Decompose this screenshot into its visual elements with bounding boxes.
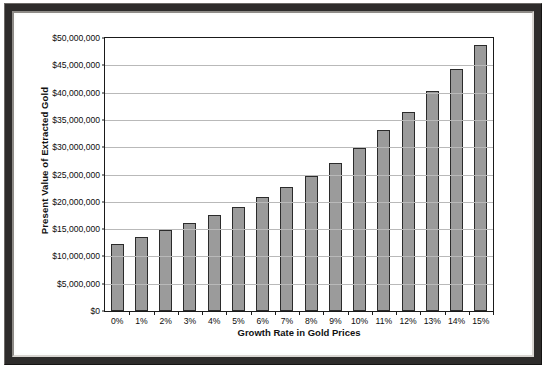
y-axis-tick-label: $50,000,000 bbox=[52, 33, 100, 43]
x-axis-tick-label: 12% bbox=[400, 316, 417, 326]
y-axis-tick bbox=[102, 256, 105, 257]
gridline bbox=[105, 93, 493, 94]
x-axis-tick bbox=[396, 311, 397, 315]
y-axis-tick bbox=[102, 92, 105, 93]
gridline bbox=[105, 65, 493, 66]
bar bbox=[256, 197, 269, 311]
y-axis-tick-label: $10,000,000 bbox=[52, 251, 100, 261]
x-axis-tick bbox=[275, 311, 276, 315]
x-axis-tick-label: 7% bbox=[281, 316, 293, 326]
y-axis-tick bbox=[102, 174, 105, 175]
bar bbox=[183, 223, 196, 311]
x-axis-tick-label: 11% bbox=[376, 316, 393, 326]
x-axis-tick-label: 4% bbox=[208, 316, 220, 326]
bar bbox=[135, 237, 148, 311]
x-axis-tick bbox=[226, 311, 227, 315]
bar bbox=[474, 45, 487, 311]
x-axis-tick bbox=[251, 311, 252, 315]
y-axis-tick-label: $25,000,000 bbox=[52, 170, 100, 180]
x-axis-tick bbox=[348, 311, 349, 315]
gridline bbox=[105, 147, 493, 148]
y-axis-tick-label: $20,000,000 bbox=[52, 197, 100, 207]
x-axis-tick-label: 15% bbox=[472, 316, 489, 326]
bar bbox=[450, 69, 463, 311]
gridline bbox=[105, 202, 493, 203]
y-axis-tick-label: $30,000,000 bbox=[52, 142, 100, 152]
x-axis-tick-label: 5% bbox=[232, 316, 244, 326]
x-axis-tick bbox=[154, 311, 155, 315]
x-axis-tick bbox=[469, 311, 470, 315]
x-axis-tick bbox=[493, 311, 494, 315]
x-axis-tick bbox=[420, 311, 421, 315]
x-axis-tick-label: 14% bbox=[448, 316, 465, 326]
y-axis-tick bbox=[102, 229, 105, 230]
gridline bbox=[105, 229, 493, 230]
x-axis-tick bbox=[372, 311, 373, 315]
x-axis-tick-label: 1% bbox=[135, 316, 147, 326]
x-axis-tick bbox=[202, 311, 203, 315]
gridline bbox=[105, 175, 493, 176]
y-axis-tick bbox=[102, 119, 105, 120]
x-axis-tick bbox=[445, 311, 446, 315]
y-axis-title: Present Value of Extracted Gold bbox=[39, 51, 50, 271]
x-axis-tick-label: 0% bbox=[111, 316, 123, 326]
y-axis-tick bbox=[102, 283, 105, 284]
x-axis-tick-label: 3% bbox=[184, 316, 196, 326]
bar bbox=[232, 207, 245, 311]
gridline bbox=[105, 256, 493, 257]
x-axis-tick bbox=[178, 311, 179, 315]
y-axis-tick bbox=[102, 38, 105, 39]
bar-chart: Present Value of Extracted Gold $0$5,000… bbox=[16, 15, 530, 353]
gridline bbox=[105, 120, 493, 121]
x-axis-tick bbox=[323, 311, 324, 315]
gridline bbox=[105, 284, 493, 285]
bar bbox=[329, 163, 342, 311]
bar bbox=[305, 176, 318, 311]
bar bbox=[402, 112, 415, 311]
x-axis-tick-label: 8% bbox=[305, 316, 317, 326]
y-axis-tick-label: $0 bbox=[90, 306, 100, 316]
y-axis-tick-label: $15,000,000 bbox=[52, 224, 100, 234]
x-axis-tick-label: 13% bbox=[424, 316, 441, 326]
y-axis-tick-label: $5,000,000 bbox=[57, 279, 100, 289]
bar bbox=[159, 230, 172, 311]
y-axis-tick bbox=[102, 201, 105, 202]
bar bbox=[280, 187, 293, 311]
x-axis-tick-label: 9% bbox=[329, 316, 341, 326]
y-axis-tick bbox=[102, 65, 105, 66]
x-axis-tick bbox=[129, 311, 130, 315]
x-axis-tick bbox=[299, 311, 300, 315]
y-axis-tick bbox=[102, 147, 105, 148]
x-axis-tick-label: 2% bbox=[159, 316, 171, 326]
x-axis-tick-label: 6% bbox=[256, 316, 268, 326]
y-axis-tick-label: $35,000,000 bbox=[52, 115, 100, 125]
x-axis-tick-label: 10% bbox=[351, 316, 368, 326]
chart-screenshot: Present Value of Extracted Gold $0$5,000… bbox=[0, 0, 546, 369]
y-axis-tick-label: $40,000,000 bbox=[52, 88, 100, 98]
bar bbox=[111, 244, 124, 311]
plot-area: $0$5,000,000$10,000,000$15,000,000$20,00… bbox=[104, 37, 494, 312]
y-axis-tick-label: $45,000,000 bbox=[52, 60, 100, 70]
x-axis-title: Growth Rate in Gold Prices bbox=[104, 327, 494, 338]
y-axis-tick bbox=[102, 311, 105, 312]
